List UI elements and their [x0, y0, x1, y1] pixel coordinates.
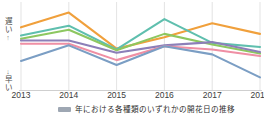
chart-figure: 遅 い ↑ ↓ 早 い 201320142015201620172018 年にお…	[0, 0, 264, 114]
x-tick-2018: 2018	[251, 90, 264, 100]
line-chart-svg	[19, 2, 262, 90]
x-tick-2017: 2017	[203, 90, 222, 100]
x-tick-2014: 2014	[59, 90, 78, 100]
plot-area	[19, 2, 262, 90]
x-tick-2013: 2013	[12, 90, 31, 100]
y-axis-arrow-up-icon: ↑	[6, 34, 10, 42]
caption-swatch-icon	[58, 107, 71, 112]
y-axis-label-char-early-2: い	[5, 84, 12, 92]
x-tick-2016: 2016	[155, 90, 174, 100]
x-tick-2015: 2015	[107, 90, 126, 100]
y-axis-label-char-late-2: い	[5, 26, 12, 34]
chart-caption: 年における各種類のいずれかの開花日の推移	[0, 104, 264, 114]
caption-text: 年における各種類のいずれかの開花日の推移	[75, 105, 235, 114]
y-axis-label: 遅 い ↑ ↓ 早 い	[1, 18, 15, 92]
x-axis-tick-labels: 201320142015201620172018	[19, 90, 262, 103]
